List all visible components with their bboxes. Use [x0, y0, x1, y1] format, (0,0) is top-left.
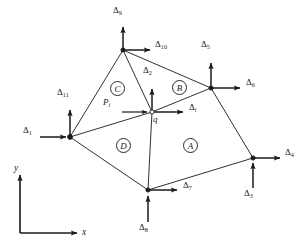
axis-label-y: y — [14, 163, 18, 173]
label-delta-7: Δ7 — [183, 181, 192, 191]
edge-bottom-right — [148, 158, 253, 190]
node-far-right-dot — [251, 156, 255, 160]
label-delta-11: Δ11 — [57, 88, 69, 98]
axis-label-x: x — [82, 227, 86, 237]
label-force-p-i: Pi — [103, 98, 110, 108]
edge-left-q — [70, 112, 152, 137]
edge-left-bottom — [70, 137, 148, 190]
region-label-c: C — [110, 81, 125, 96]
region-label-d: D — [116, 138, 131, 153]
region-label-b: B — [172, 80, 187, 95]
label-delta-10: Δ10 — [155, 40, 167, 50]
edge-top-upperright — [123, 50, 211, 88]
node-bottom-dot — [146, 188, 150, 192]
node-left-dot — [68, 135, 73, 140]
region-label-a: A — [183, 138, 198, 153]
edge-top-q — [123, 50, 152, 112]
diagram-canvas: Δ1 Δ11 Δ9 Δ10 Δ2 Δi Pi Δ5 Δ6 Δ4 Δ3 Δ7 Δ8… — [0, 0, 308, 245]
label-delta-4: Δ4 — [285, 148, 294, 158]
label-delta-8: Δ8 — [139, 223, 148, 233]
label-delta-2: Δ2 — [143, 66, 152, 76]
label-node-q: q — [153, 114, 158, 124]
edge-upperright-right — [211, 88, 253, 158]
edge-q-bottom — [148, 112, 152, 190]
label-delta-9: Δ9 — [113, 6, 122, 16]
node-upper-right-dot — [209, 86, 213, 90]
label-delta-5: Δ5 — [201, 40, 210, 50]
coordinate-axes — [20, 175, 77, 233]
mesh-edges — [70, 50, 253, 190]
node-top-dot — [121, 48, 125, 52]
label-delta-3: Δ3 — [244, 189, 253, 199]
mesh-nodes — [68, 48, 256, 192]
label-delta-6: Δ6 — [246, 78, 255, 88]
label-delta-1: Δ1 — [23, 126, 32, 136]
label-delta-i: Δi — [189, 103, 197, 113]
